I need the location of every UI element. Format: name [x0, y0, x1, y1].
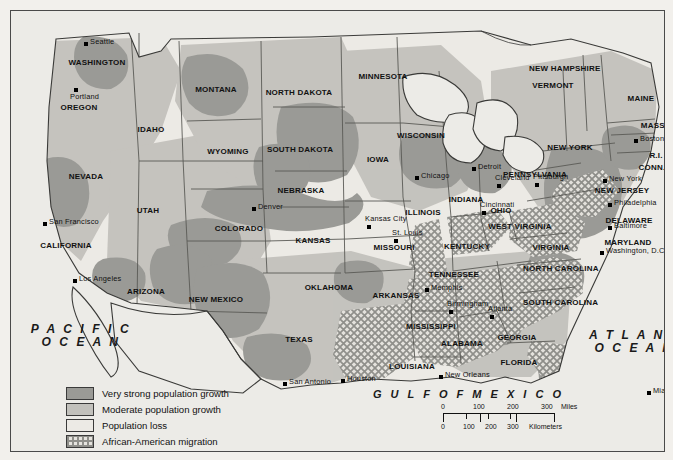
state-label: NEW MEXICO [182, 296, 250, 304]
state-label: NORTH DAKOTA [265, 89, 333, 97]
city-label: Atlanta [488, 305, 512, 313]
state-label: VIRGINIA [517, 244, 585, 252]
city-dot [608, 226, 612, 230]
city-label: San Antonio [289, 378, 331, 386]
city-label: Detroit [478, 163, 501, 171]
state-label: CONN. [618, 164, 665, 172]
state-label: NORTH CAROLINA [523, 265, 591, 273]
city-label: New York [609, 175, 642, 183]
state-label: SOUTH DAKOTA [266, 146, 334, 154]
map-frame: WASHINGTONOREGONIDAHOMONTANAWYOMINGNEVAD… [10, 10, 665, 452]
state-label: NEBRASKA [267, 187, 335, 195]
city-label: St. Louis [392, 229, 423, 237]
map-geometry [11, 11, 664, 451]
state-label: NEVADA [52, 173, 120, 181]
map-screenshot: WASHINGTONOREGONIDAHOMONTANAWYOMINGNEVAD… [0, 0, 673, 460]
state-label: KANSAS [279, 237, 347, 245]
state-label: ARIZONA [112, 288, 180, 296]
city-label: Miami [653, 387, 665, 395]
state-label: ARKANSAS [362, 292, 430, 300]
city-label: Portland [70, 93, 99, 101]
legend-swatch [66, 387, 94, 400]
scale-ruler [443, 413, 555, 422]
state-label: MASS. [620, 122, 665, 130]
state-label: LOUISIANA [378, 363, 446, 371]
state-label: GEORGIA [483, 334, 551, 342]
legend-swatch [66, 419, 94, 432]
city-label: Baltimore [614, 222, 647, 230]
city-dot [608, 203, 612, 207]
legend-item: African-American migration [66, 434, 229, 449]
state-label: WEST VIRGINIA [486, 223, 554, 231]
legend-item: Population loss [66, 418, 229, 433]
city-label: Washington, D.C. [606, 247, 665, 255]
city-label: Birmingham [447, 300, 488, 308]
city-dot [439, 375, 443, 379]
city-dot [73, 279, 77, 283]
legend-swatch [66, 403, 94, 416]
state-label: KENTUCKY [433, 243, 501, 251]
city-dot [43, 222, 47, 226]
city-dot [74, 88, 78, 92]
legend-label: Population loss [102, 420, 167, 431]
city-label: Los Angeles [79, 275, 121, 283]
city-label: Memphis [431, 284, 462, 292]
gulf-of-mexico-label: G U L F O F M E X I C O [373, 389, 564, 401]
city-dot [490, 315, 494, 319]
state-label: IDAHO [117, 126, 185, 134]
city-dot [283, 382, 287, 386]
map-legend: Very strong population growthModerate po… [66, 386, 229, 450]
state-label: MINNESOTA [349, 73, 417, 81]
city-label: Pittsburgh [533, 173, 568, 181]
atlantic-ocean-label: A T L A N T I C O C E A N [589, 329, 665, 354]
state-label: NEW YORK [536, 144, 604, 152]
state-label: IOWA [344, 156, 412, 164]
state-label: SOUTH CAROLINA [523, 299, 591, 307]
state-label: OKLAHOMA [295, 284, 363, 292]
state-label: CALIFORNIA [32, 242, 100, 250]
legend-item: Moderate population growth [66, 402, 229, 417]
city-dot [647, 391, 651, 395]
pacific-ocean-label: P A C I F I C O C E A N [21, 323, 141, 348]
state-label: NEW JERSEY [588, 187, 656, 195]
city-dot [415, 176, 419, 180]
city-dot [252, 207, 256, 211]
city-label: Boston [640, 135, 664, 143]
city-label: Cleveland [495, 174, 530, 182]
scale-km-numbers: 0 100 200 300 Kilometers [443, 423, 593, 433]
city-label: Cincinnati [480, 201, 514, 209]
city-dot [600, 251, 604, 255]
city-label: Chicago [421, 172, 450, 180]
city-dot [394, 239, 398, 243]
state-label: MONTANA [182, 86, 250, 94]
state-label: WASHINGTON [63, 59, 131, 67]
scale-bar: 0 100 200 300 Miles 0 100 200 300 Kilome… [443, 403, 593, 433]
legend-label: Moderate population growth [102, 404, 221, 415]
state-label: TEXAS [265, 336, 333, 344]
state-label: VERMONT [519, 82, 587, 90]
city-label: San Francisco [49, 218, 99, 226]
city-dot [84, 42, 88, 46]
city-label: Seattle [90, 38, 114, 46]
city-dot [367, 225, 371, 229]
legend-label: Very strong population growth [102, 388, 229, 399]
state-label: OREGON [45, 104, 113, 112]
city-dot [634, 139, 638, 143]
state-label: COLORADO [205, 225, 273, 233]
legend-label: African-American migration [102, 436, 218, 447]
city-label: Houston [347, 375, 376, 383]
city-label: Denver [258, 203, 283, 211]
city-label: Kansas City [365, 215, 407, 223]
state-label: MAINE [607, 95, 665, 103]
state-label: TENNESSEE [420, 271, 488, 279]
city-dot [449, 310, 453, 314]
city-dot [497, 184, 501, 188]
city-dot [425, 288, 429, 292]
city-label: New Orleans [445, 371, 490, 379]
city-label: Philadelphia [614, 199, 657, 207]
legend-swatch [66, 435, 94, 448]
state-label: FLORIDA [485, 359, 553, 367]
city-dot [535, 183, 539, 187]
legend-item: Very strong population growth [66, 386, 229, 401]
state-label: WYOMING [194, 148, 262, 156]
